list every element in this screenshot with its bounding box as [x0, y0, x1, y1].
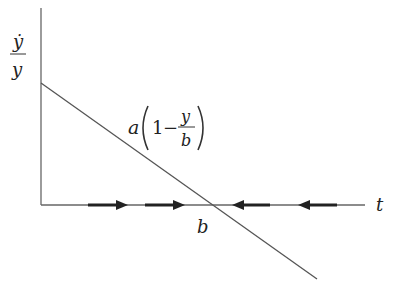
- line-label: a 1 − y b: [128, 106, 203, 150]
- y-text: y: [11, 59, 23, 80]
- fraction-num: y: [180, 107, 191, 126]
- t-axis-label: t: [376, 194, 384, 215]
- y-axis-label: ẏ y: [10, 31, 26, 80]
- minus-text: −: [163, 117, 178, 138]
- left-arrow-icon: [298, 200, 337, 210]
- right-arrow-icon: [145, 200, 185, 210]
- fraction-den: b: [181, 131, 191, 150]
- right-arrow-icon: [88, 200, 128, 210]
- intercept-label: b: [197, 216, 209, 237]
- y-dot-text: ẏ: [12, 31, 24, 52]
- coef-a: a: [128, 116, 139, 138]
- growth-rate-line: [41, 83, 317, 279]
- phase-diagram: ẏ y a 1 − y b b t: [0, 0, 396, 293]
- one-text: 1: [152, 117, 163, 138]
- left-arrow-icon: [232, 200, 270, 210]
